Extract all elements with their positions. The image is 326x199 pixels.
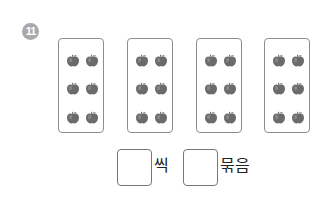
per-group-unit-label: 씩 [154,156,169,176]
group-count-answer-box[interactable] [183,149,218,186]
apple-icon [154,109,168,122]
apple-icon [154,80,168,93]
apple-group-box [196,38,242,133]
apple-icon [272,52,286,65]
apple-group-box [264,38,310,133]
apple-icon [66,80,80,93]
apple-icon [135,80,149,93]
apple-icon [291,52,305,65]
apple-group-box [127,38,173,133]
problem-number-badge: 11 [22,23,39,40]
apple-icon [223,109,237,122]
apple-icon [135,52,149,65]
apple-icon [66,52,80,65]
apple-icon [85,80,99,93]
apple-icon [223,80,237,93]
apple-icon [85,52,99,65]
apple-icon [66,109,80,122]
apple-icon [291,109,305,122]
apple-icon [272,80,286,93]
group-count-unit-label: 묶음 [220,156,250,176]
apple-icon [85,109,99,122]
apple-icon [204,109,218,122]
apple-icon [291,80,305,93]
apple-group-box [58,38,104,133]
apple-icon [204,80,218,93]
per-group-answer-box[interactable] [117,149,152,186]
apple-icon [135,109,149,122]
apple-icon [154,52,168,65]
apple-icon [272,109,286,122]
apple-icon [223,52,237,65]
apple-icon [204,52,218,65]
